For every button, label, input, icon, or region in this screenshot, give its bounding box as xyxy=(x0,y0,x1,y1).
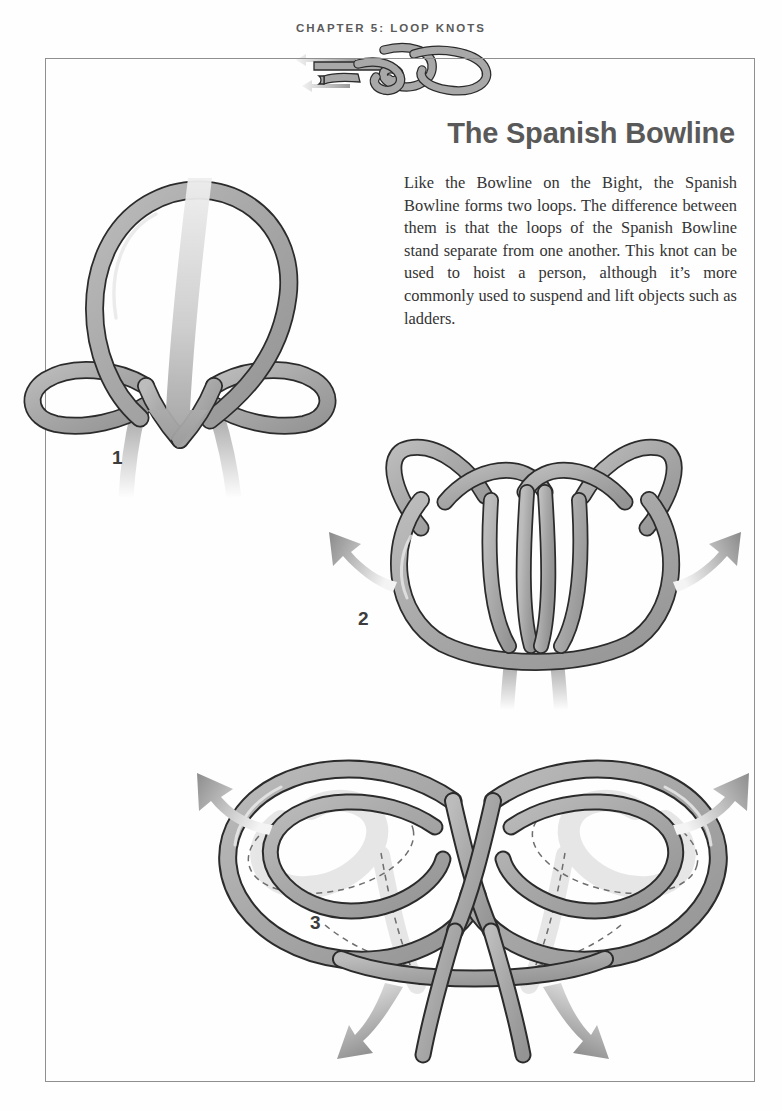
step-2-inner-strands xyxy=(490,492,581,646)
step-3-bottom-band xyxy=(341,959,605,979)
step-2-left-arrow xyxy=(329,532,397,592)
step-number-2: 2 xyxy=(358,608,369,630)
chapter-header: CHAPTER 5: LOOP KNOTS xyxy=(0,22,782,34)
step-2-diagram xyxy=(295,440,775,710)
step-3-bottom-left-arrow xyxy=(337,983,403,1059)
step-3-bottom-right-arrow xyxy=(543,983,609,1059)
step-number-1: 1 xyxy=(112,447,123,469)
step-number-3: 3 xyxy=(310,912,321,934)
step-2-right-arrow xyxy=(673,532,741,592)
step-2-upper-crossings xyxy=(445,470,625,502)
page-title: The Spanish Bowline xyxy=(395,116,735,150)
step-1-diagram xyxy=(20,118,340,498)
step-3-diagram xyxy=(185,735,770,1065)
intro-paragraph: Like the Bowline on the Bight, the Spani… xyxy=(404,172,737,330)
book-page: CHAPTER 5: LOOP KNOTS xyxy=(0,0,782,1111)
